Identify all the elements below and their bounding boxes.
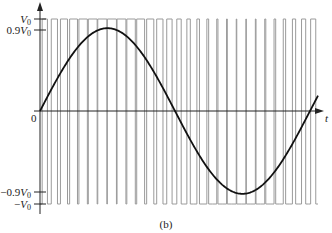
y-axis-arrow-icon xyxy=(37,2,43,11)
ytick-label-neg-v0: −V0 xyxy=(14,198,31,212)
x-axis-arrow-icon xyxy=(315,108,324,114)
x-axis-label: t xyxy=(325,112,329,124)
figure-caption: (b) xyxy=(160,218,173,231)
origin-label: 0 xyxy=(31,112,37,124)
pwm-figure: V0 0.9V0 −0.9V0 −V0 0 t (b) xyxy=(0,0,332,233)
